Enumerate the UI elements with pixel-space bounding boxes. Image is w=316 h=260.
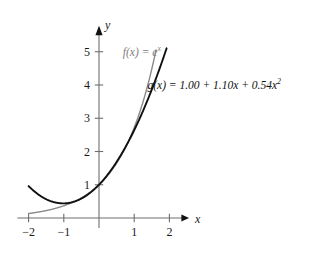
x-axis-tick-labels: −2−112 xyxy=(22,225,172,239)
y-tick-label: 3 xyxy=(84,111,90,125)
x-axis-arrowhead xyxy=(181,214,189,221)
x-tick-label: −2 xyxy=(22,225,35,239)
curve-label-g-exponent: 2 xyxy=(277,77,281,86)
y-axis-tick-labels: 12345 xyxy=(84,45,90,192)
curve-label-g: g(x) = 1.00 + 1.10x + 0.54x2 xyxy=(136,65,281,103)
curve-label-g-text: g(x) = 1.00 + 1.10x + 0.54x xyxy=(147,79,277,91)
x-tick-label: −1 xyxy=(57,225,70,239)
curve-label-f-text: f(x) = e xyxy=(123,46,158,58)
y-axis-name: y xyxy=(104,18,111,32)
x-tick-label: 1 xyxy=(131,225,137,239)
y-tick-label: 2 xyxy=(84,145,90,159)
curve-label-f: f(x) = ex xyxy=(111,32,161,70)
x-tick-label: 2 xyxy=(166,225,172,239)
y-tick-label: 5 xyxy=(84,45,90,59)
y-tick-label: 4 xyxy=(84,78,90,92)
y-tick-label: 1 xyxy=(84,178,90,192)
y-axis-arrowhead xyxy=(95,26,102,35)
x-axis-name: x xyxy=(194,212,201,226)
function-graph-figure: −2−112 12345 x y f(x) = ex g(x) = 1.00 +… xyxy=(0,0,316,260)
curve-label-f-exponent: x xyxy=(157,44,160,53)
